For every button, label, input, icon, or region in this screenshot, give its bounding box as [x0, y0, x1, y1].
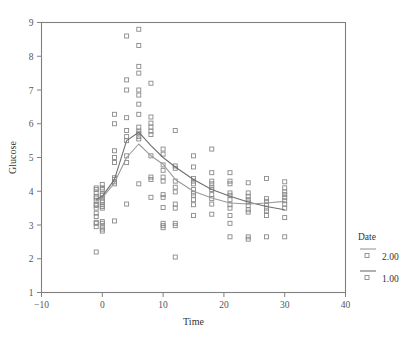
- data-point-marker: [161, 147, 165, 151]
- data-point-marker: [137, 43, 141, 47]
- y-tick-label: 9: [29, 18, 34, 28]
- data-point-marker: [137, 125, 141, 129]
- data-point-marker: [125, 88, 129, 92]
- x-tick-label: −10: [34, 300, 49, 310]
- data-point-marker: [264, 209, 268, 213]
- data-point-marker: [192, 214, 196, 218]
- legend-title: Date: [358, 232, 376, 242]
- data-point-marker: [228, 214, 232, 218]
- x-tick-label: 40: [341, 300, 351, 310]
- data-point-marker: [192, 165, 196, 169]
- trend-lines: [96, 132, 284, 210]
- legend-entry-label: 2.00: [382, 252, 399, 262]
- legend-marker-swatch: [365, 254, 369, 258]
- data-point-marker: [173, 255, 177, 259]
- x-tick-label: 10: [158, 300, 168, 310]
- data-point-marker: [173, 129, 177, 133]
- x-tick-label: 30: [280, 300, 290, 310]
- data-point-marker: [137, 182, 141, 186]
- y-tick-label: 1: [29, 288, 34, 298]
- legend-entry-label: 1.00: [382, 274, 399, 284]
- trend-line-1.00: [96, 144, 284, 204]
- y-axis-title: Glucose: [7, 141, 18, 174]
- chart-canvas: −10010203040123456789 TimeGlucose Date2.…: [0, 0, 414, 340]
- data-point-marker: [100, 200, 104, 204]
- data-point-marker: [137, 64, 141, 68]
- data-point-marker: [192, 182, 196, 186]
- legend-marker-swatch: [365, 276, 369, 280]
- y-tick-label: 2: [29, 254, 34, 264]
- x-axis-title: Time: [183, 316, 204, 327]
- data-point-marker: [283, 193, 287, 197]
- data-point-marker: [210, 202, 214, 206]
- data-point-marker: [94, 250, 98, 254]
- data-point-marker: [125, 129, 129, 133]
- data-point-marker: [228, 235, 232, 239]
- axis-ticks: [37, 23, 346, 298]
- data-point-marker: [210, 212, 214, 216]
- data-point-marker: [137, 93, 141, 97]
- data-point-marker: [112, 149, 116, 153]
- data-point-marker: [210, 179, 214, 183]
- data-point-marker: [173, 206, 177, 210]
- data-point-marker: [112, 161, 116, 165]
- data-point-marker: [192, 203, 196, 207]
- data-point-marker: [228, 171, 232, 175]
- data-point-marker: [112, 112, 116, 116]
- trend-line-2.00: [96, 132, 284, 210]
- data-point-marker: [112, 219, 116, 223]
- data-point-marker: [161, 175, 165, 179]
- data-point-marker: [125, 116, 129, 120]
- data-point-marker: [125, 135, 129, 139]
- glucose-time-scatter-chart: −10010203040123456789 TimeGlucose Date2.…: [0, 0, 414, 340]
- data-point-marker: [149, 81, 153, 85]
- data-point-marker: [112, 156, 116, 160]
- data-point-marker: [112, 122, 116, 126]
- data-point-marker: [149, 115, 153, 119]
- data-point-marker: [264, 214, 268, 218]
- y-tick-label: 6: [29, 119, 34, 129]
- data-point-marker: [137, 71, 141, 75]
- data-point-marker: [137, 27, 141, 31]
- data-point-marker: [125, 34, 129, 38]
- data-point-marker: [161, 205, 165, 209]
- data-point-marker: [149, 195, 153, 199]
- data-point-marker: [192, 154, 196, 158]
- data-point-marker: [283, 180, 287, 184]
- data-point-marker: [94, 203, 98, 207]
- y-tick-label: 5: [29, 153, 34, 163]
- data-point-marker: [125, 78, 129, 82]
- data-point-marker: [100, 199, 104, 203]
- data-point-marker: [210, 147, 214, 151]
- data-point-marker: [137, 112, 141, 116]
- data-point-marker: [137, 88, 141, 92]
- data-point-marker: [173, 185, 177, 189]
- data-point-marker: [246, 181, 250, 185]
- data-point-marker: [94, 206, 98, 210]
- axis-tick-labels: −10010203040123456789: [29, 18, 351, 310]
- data-point-marker: [149, 121, 153, 125]
- y-tick-label: 7: [29, 86, 34, 96]
- data-point-marker: [228, 179, 232, 183]
- data-point-marker: [228, 221, 232, 225]
- data-point-marker: [228, 182, 232, 186]
- x-tick-label: 0: [100, 300, 105, 310]
- data-point-marker: [192, 198, 196, 202]
- data-point-marker: [264, 235, 268, 239]
- data-point-marker: [210, 193, 214, 197]
- data-point-marker: [210, 171, 214, 175]
- data-point-marker: [161, 193, 165, 197]
- data-point-marker: [125, 202, 129, 206]
- data-point-marker: [149, 125, 153, 129]
- data-point-marker: [137, 102, 141, 106]
- data-point-marker: [161, 179, 165, 183]
- y-tick-label: 3: [29, 221, 34, 231]
- data-point-marker: [283, 235, 287, 239]
- data-point-marker: [283, 216, 287, 220]
- data-point-marker: [173, 202, 177, 206]
- data-point-marker: [161, 195, 165, 199]
- legend: Date2.001.00: [358, 232, 399, 284]
- data-points: [94, 27, 286, 259]
- y-tick-label: 8: [29, 52, 34, 62]
- data-point-marker: [228, 198, 232, 202]
